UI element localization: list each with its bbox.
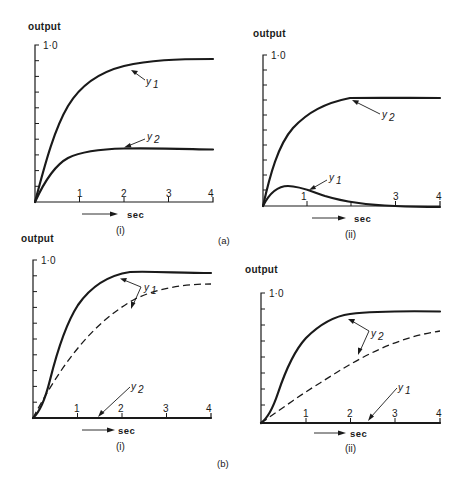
- group-label-b: (b): [217, 458, 229, 469]
- axes: [35, 45, 213, 202]
- svg-text:y: y: [145, 76, 152, 87]
- label-y1: y 1: [368, 382, 411, 421]
- y-axis-label: output: [21, 233, 54, 244]
- x-tick-4: 4: [206, 403, 212, 414]
- panel-sublabel: (ii): [345, 443, 356, 454]
- svg-text:1: 1: [405, 385, 411, 396]
- svg-text:y: y: [370, 328, 377, 339]
- panel-sublabel: (ii): [345, 229, 356, 240]
- x-tick-1: 1: [301, 191, 307, 202]
- svg-text:y: y: [130, 381, 137, 392]
- curve-y2: [263, 98, 440, 206]
- x-direction-arrow: [82, 212, 118, 217]
- x-tick-3: 3: [163, 403, 169, 414]
- curve-y1: [35, 59, 213, 202]
- figure: output 1·0 1 2 3 4 sec (i): [0, 0, 463, 485]
- y-max-label: 1·0: [43, 40, 58, 51]
- panel-sublabel: (i): [116, 441, 125, 452]
- panel-a-i: output 1·0 1 2 3 4 sec (i): [28, 21, 214, 236]
- x-tick-1: 1: [303, 408, 309, 419]
- x-tick-3: 3: [166, 188, 172, 199]
- x-tick-3: 3: [393, 191, 399, 202]
- svg-text:1: 1: [153, 79, 159, 90]
- group-label-a: (a): [218, 235, 230, 246]
- y-axis-label: output: [253, 28, 286, 39]
- panel-b-i: output 1·0 1 2 3 4 sec (i): [21, 233, 212, 452]
- curve-y1-dashed: [33, 284, 211, 418]
- y-axis-label: output: [28, 21, 61, 32]
- panel-b-ii: output 1·0 1 2 3 4 sec (ii): [245, 264, 442, 454]
- x-axis-label: sec: [118, 425, 135, 436]
- svg-text:y: y: [146, 131, 153, 142]
- curve-y2-solid: [261, 311, 440, 423]
- y-max-label: 1·0: [41, 255, 56, 266]
- x-tick-4: 4: [436, 191, 442, 202]
- x-tick-4: 4: [208, 188, 214, 199]
- x-tick-2: 2: [118, 403, 124, 414]
- label-y1: y 1: [309, 172, 342, 190]
- label-y1: y 1: [131, 70, 159, 90]
- svg-text:1: 1: [151, 285, 157, 296]
- label-y2: y 2: [352, 100, 395, 123]
- y-max-label: 1·0: [271, 50, 286, 61]
- y-max-label: 1·0: [269, 288, 284, 299]
- svg-text:y: y: [397, 382, 404, 393]
- x-tick-2: 2: [121, 188, 127, 199]
- panel-a-ii: output 1·0 1 3 4 sec (ii): [253, 28, 442, 240]
- svg-text:2: 2: [153, 134, 160, 145]
- svg-text:2: 2: [137, 384, 144, 395]
- x-direction-arrow: [82, 428, 115, 433]
- x-tick-4: 4: [436, 408, 442, 419]
- svg-text:y: y: [381, 109, 388, 120]
- x-tick-3: 3: [392, 408, 398, 419]
- x-tick-1: 1: [77, 188, 83, 199]
- svg-text:2: 2: [377, 331, 384, 342]
- panel-sublabel: (i): [116, 225, 125, 236]
- svg-text:2: 2: [388, 112, 395, 123]
- x-tick-2: 2: [347, 408, 353, 419]
- x-direction-arrow: [312, 216, 346, 221]
- x-axis-label: sec: [127, 209, 144, 220]
- x-direction-arrow: [314, 431, 346, 436]
- svg-text:y: y: [328, 172, 335, 183]
- label-y2: y 2: [124, 131, 160, 148]
- svg-text:y: y: [143, 282, 150, 293]
- x-axis-label: sec: [350, 428, 367, 439]
- svg-text:1: 1: [336, 175, 342, 186]
- x-tick-1: 1: [74, 403, 80, 414]
- y-axis-label: output: [245, 264, 278, 275]
- curve-y1-solid: [33, 272, 211, 418]
- x-axis-label: sec: [354, 213, 371, 224]
